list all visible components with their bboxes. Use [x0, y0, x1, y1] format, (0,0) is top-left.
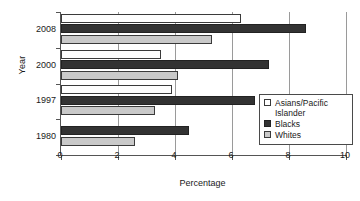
bar-fill [61, 137, 135, 146]
bar [61, 137, 135, 146]
y-axis-tick [56, 84, 61, 85]
bar [61, 85, 172, 94]
x-axis-tick-label: 8 [276, 150, 300, 160]
bar [61, 60, 269, 69]
x-axis-tick-label: 10 [333, 150, 357, 160]
bar-fill [61, 50, 161, 59]
bar [61, 14, 241, 23]
legend-swatch-icon [264, 131, 271, 138]
y-axis-category-label: 1997 [4, 95, 56, 105]
bar-fill [61, 71, 178, 80]
bar-fill [61, 96, 255, 105]
y-axis-category-label: 1980 [4, 131, 56, 141]
bar-fill [61, 126, 189, 135]
legend-item: Blacks [264, 119, 349, 129]
x-axis-tick-label: 4 [162, 150, 186, 160]
legend-item: Asians/Pacific Islander [264, 98, 349, 118]
y-axis-category-label: 2008 [4, 24, 56, 34]
bar-fill [61, 35, 212, 44]
gridline [232, 12, 233, 155]
bar-chart-figure: Year 2008200019971980 0246810 Percentage… [0, 0, 360, 201]
bar [61, 50, 161, 59]
legend-label: Asians/Pacific Islander [275, 98, 349, 118]
bar-fill [61, 14, 241, 23]
bar [61, 106, 155, 115]
bar-fill [61, 24, 306, 33]
x-axis-title: Percentage [60, 178, 345, 188]
legend-item: Whites [264, 130, 349, 140]
legend-swatch-icon [264, 120, 271, 127]
bar-fill [61, 106, 155, 115]
bar-fill [61, 60, 269, 69]
bar-fill [61, 85, 172, 94]
chart-legend: Asians/Pacific IslanderBlacksWhites [259, 94, 353, 145]
y-axis-category-label: 2000 [4, 60, 56, 70]
bar [61, 35, 212, 44]
bar [61, 96, 255, 105]
y-axis-tick [56, 12, 61, 13]
y-axis-tick [56, 48, 61, 49]
legend-label: Whites [275, 130, 301, 140]
x-axis-tick-label: 6 [219, 150, 243, 160]
y-axis-tick [56, 119, 61, 120]
bar [61, 126, 189, 135]
legend-swatch-icon [264, 99, 271, 106]
x-axis-tick-label: 0 [48, 150, 72, 160]
legend-label: Blacks [275, 119, 300, 129]
bar [61, 24, 306, 33]
bar [61, 71, 178, 80]
x-axis-tick-label: 2 [105, 150, 129, 160]
